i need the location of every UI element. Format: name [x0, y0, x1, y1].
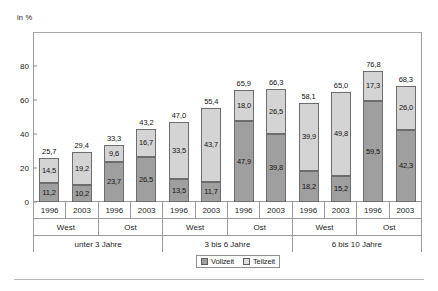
bar-segment-label: 33,5	[172, 147, 186, 155]
bar-segment-label: 9,6	[109, 150, 119, 158]
axis-age-group-cell: unter 3 Jahre	[34, 236, 163, 253]
axis-region-cell: Ost	[357, 219, 422, 236]
axis-region-cell: West	[292, 219, 357, 236]
bar-stack[interactable]: 33,513,5	[169, 122, 189, 202]
axis-row-years: 1996200319962003199620031996200319962003…	[34, 202, 422, 219]
bar-segment-vollzeit[interactable]: 26,5	[136, 157, 156, 202]
chart-legend[interactable]: VollzeitTeilzeit	[196, 255, 280, 268]
bar-segment-label: 49,8	[334, 130, 348, 138]
bar-segment-label: 39,9	[302, 133, 316, 141]
teilzeit-swatch	[243, 258, 250, 265]
bar-segment-label: 26,5	[269, 108, 283, 116]
axis-region-cell: West	[163, 219, 228, 236]
bar-stack[interactable]: 26,539,8	[266, 89, 286, 202]
axis-age-group-cell: 3 bis 6 Jahre	[163, 236, 292, 253]
bar-stack[interactable]: 16,726,5	[136, 129, 156, 202]
axis-year-cell: 2003	[195, 202, 227, 219]
bar-segment-label: 19,2	[75, 165, 89, 173]
y-tick-mark-40	[33, 134, 37, 135]
axis-region-cell: Ost	[98, 219, 163, 236]
bar-stack[interactable]: 17,359,5	[363, 71, 383, 202]
bar-segment-label: 26,0	[399, 104, 413, 112]
bar-stack[interactable]: 14,511,2	[39, 158, 59, 202]
bar-segment-teilzeit[interactable]: 26,5	[266, 89, 286, 134]
bar-segment-label: 39,8	[269, 164, 283, 172]
bottom-divider	[14, 279, 424, 280]
bar-segment-vollzeit[interactable]: 15,2	[331, 176, 351, 202]
axis-region-cell: Ost	[227, 219, 292, 236]
bar-segment-label: 18,2	[302, 183, 316, 191]
bar-segment-label: 13,5	[172, 187, 186, 195]
bar-segment-label: 18,0	[237, 102, 251, 110]
axis-year-cell: 1996	[292, 202, 324, 219]
axis-year-cell: 2003	[130, 202, 162, 219]
axis-year-cell: 1996	[357, 202, 389, 219]
bar-segment-teilzeit[interactable]: 16,7	[136, 129, 156, 157]
axis-year-cell: 1996	[163, 202, 195, 219]
axis-year-cell: 2003	[324, 202, 356, 219]
bar-segment-label: 47,9	[237, 158, 251, 166]
bar-segment-vollzeit[interactable]: 18,2	[299, 171, 319, 202]
bar-segment-teilzeit[interactable]: 39,9	[299, 103, 319, 171]
bar-segment-label: 11,7	[204, 188, 218, 196]
y-tick-label-40: 40	[20, 130, 29, 139]
y-tick-mark-60	[33, 100, 37, 101]
bar-segment-vollzeit[interactable]: 23,7	[104, 162, 124, 202]
bar-segment-teilzeit[interactable]: 9,6	[104, 145, 124, 161]
bar-segment-teilzeit[interactable]: 49,8	[331, 92, 351, 177]
bar-segment-label: 23,7	[107, 178, 121, 186]
axis-year-cell: 1996	[34, 202, 66, 219]
bar-stack[interactable]: 26,042,3	[396, 86, 416, 202]
bar-segment-vollzeit[interactable]: 42,3	[396, 130, 416, 202]
y-tick-label-80: 80	[20, 62, 29, 71]
axis-age-group-cell: 6 bis 10 Jahre	[292, 236, 421, 253]
bar-segment-label: 43,7	[204, 141, 218, 149]
y-tick-mark-0	[33, 202, 37, 203]
bar-segment-vollzeit[interactable]: 47,9	[234, 121, 254, 202]
bar-segment-vollzeit[interactable]: 59,5	[363, 101, 383, 202]
bar-stack[interactable]: 19,210,2	[72, 152, 92, 202]
bar-segment-teilzeit[interactable]: 26,0	[396, 86, 416, 130]
bar-segment-label: 10,2	[75, 190, 89, 198]
bar-stack[interactable]: 18,047,9	[234, 90, 254, 202]
legend-item-teilzeit[interactable]: Teilzeit	[243, 257, 275, 266]
y-tick-mark-80	[33, 66, 37, 67]
y-tick-label-0: 0	[25, 198, 29, 207]
bar-segment-vollzeit[interactable]: 10,2	[72, 185, 92, 202]
legend-item-vollzeit[interactable]: Vollzeit	[201, 257, 234, 266]
axis-year-cell: 1996	[98, 202, 130, 219]
bar-segment-teilzeit[interactable]: 33,5	[169, 122, 189, 179]
bar-segment-vollzeit[interactable]: 11,2	[39, 183, 59, 202]
bar-stack[interactable]: 9,623,7	[104, 145, 124, 202]
legend-label: Teilzeit	[253, 257, 275, 266]
y-tick-label-60: 60	[20, 96, 29, 105]
axis-year-cell: 2003	[389, 202, 421, 219]
bar-segment-teilzeit[interactable]: 19,2	[72, 152, 92, 185]
bar-segment-label: 14,5	[42, 167, 56, 175]
bar-stack[interactable]: 39,918,2	[299, 103, 319, 202]
legend-label: Vollzeit	[211, 257, 234, 266]
bar-segment-label: 17,3	[366, 82, 380, 90]
axis-year-cell: 1996	[227, 202, 259, 219]
bar-segment-label: 59,5	[366, 148, 380, 156]
bar-segment-label: 11,2	[42, 189, 56, 197]
bar-segment-teilzeit[interactable]: 17,3	[363, 71, 383, 100]
bar-segment-teilzeit[interactable]: 14,5	[39, 158, 59, 183]
axis-row-age-groups: unter 3 Jahre3 bis 6 Jahre6 bis 10 Jahre	[34, 236, 422, 253]
bar-segment-teilzeit[interactable]: 43,7	[201, 108, 221, 182]
bar-segment-vollzeit[interactable]: 39,8	[266, 134, 286, 202]
category-axis-table: 1996200319962003199620031996200319962003…	[33, 202, 422, 252]
bar-stack[interactable]: 43,711,7	[201, 108, 221, 202]
bar-segment-vollzeit[interactable]: 11,7	[201, 182, 221, 202]
bar-segment-teilzeit[interactable]: 18,0	[234, 90, 254, 121]
chart-container: in % 020406080 14,511,225,719,210,229,49…	[0, 0, 438, 291]
vollzeit-swatch	[201, 258, 208, 265]
bar-segment-vollzeit[interactable]: 13,5	[169, 179, 189, 202]
axis-year-cell: 2003	[66, 202, 98, 219]
bar-stack[interactable]: 49,815,2	[331, 92, 351, 203]
bar-segment-label: 42,3	[399, 162, 413, 170]
y-tick-label-20: 20	[20, 164, 29, 173]
axis-row-regions: WestOstWestOstWestOst	[34, 219, 422, 236]
bar-segment-label: 15,2	[334, 185, 348, 193]
axis-year-cell: 2003	[260, 202, 292, 219]
